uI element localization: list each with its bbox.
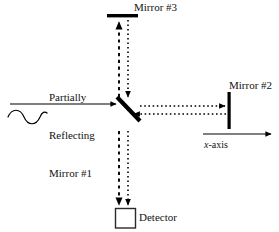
beamsplitter-label-line2: Reflecting — [49, 129, 95, 142]
x-axis-label-rest: -axis — [208, 139, 227, 150]
mirror3-bar — [107, 14, 138, 17]
beamsplitter-label-line3: Mirror #1 — [49, 167, 95, 180]
optics-diagram-canvas — [0, 0, 279, 232]
detector-box — [116, 209, 136, 229]
mirror3-label: Mirror #3 — [134, 1, 177, 13]
beamsplitter-label-line1: Partially — [49, 91, 95, 104]
beamsplitter-bar — [117, 97, 140, 121]
mirror2-bar — [228, 92, 231, 129]
interferometer-figure: Mirror #3 Mirror #2 Partially Reflecting… — [0, 0, 279, 232]
detector-label: Detector — [139, 211, 177, 223]
x-axis-label: x-axis — [204, 139, 228, 151]
beamsplitter-label: Partially Reflecting Mirror #1 — [49, 66, 95, 205]
source-wave — [8, 110, 47, 124]
mirror2-label: Mirror #2 — [229, 79, 272, 91]
